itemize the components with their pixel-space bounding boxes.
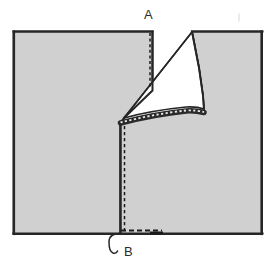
leader-line-b [109,234,120,254]
label-a: A [144,8,153,21]
fold-diagram-svg [0,0,275,262]
label-b: B [124,245,133,258]
figure-container: A B [0,0,275,262]
